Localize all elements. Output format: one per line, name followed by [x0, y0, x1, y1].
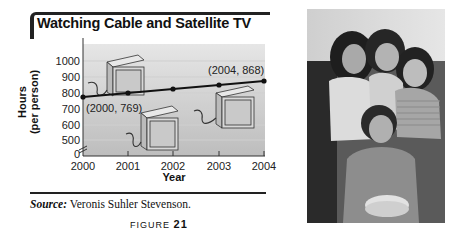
- svg-text:2004: 2004: [252, 160, 276, 172]
- figure-word: FIGURE: [130, 220, 170, 230]
- source-text: Veronis Suhler Stevenson.: [67, 198, 191, 210]
- photo-illustration: [307, 9, 445, 223]
- annotation-2004: (2004, 868): [208, 64, 264, 76]
- family-photo: [307, 9, 445, 223]
- ytick-700: 700: [62, 103, 80, 115]
- y-axis-label-line1: Hours: [16, 70, 28, 134]
- line-chart: 0 500 600 700 800 900 1000 2000 2001 200…: [0, 0, 300, 180]
- svg-text:2001: 2001: [116, 160, 140, 172]
- annotation-2000: (2000, 769): [86, 102, 142, 114]
- svg-text:2000: 2000: [71, 160, 95, 172]
- x-axis-label: Year: [162, 171, 185, 183]
- figure-label: FIGURE 21: [130, 218, 188, 230]
- ytick-1000: 1000: [56, 55, 80, 67]
- ytick-500: 500: [62, 134, 80, 146]
- y-axis-label-line2: (per person): [28, 70, 40, 134]
- source-label: Source:: [30, 198, 67, 210]
- caption-rule: [30, 192, 266, 194]
- ytick-900: 900: [62, 71, 80, 83]
- y-axis-label: Hours (per person): [16, 70, 40, 134]
- svg-text:2003: 2003: [207, 160, 231, 172]
- ytick-800: 800: [62, 87, 80, 99]
- ytick-0: 0: [74, 148, 80, 160]
- figure-number: 21: [174, 218, 188, 230]
- source-caption: Source: Veronis Suhler Stevenson.: [30, 198, 191, 210]
- ytick-600: 600: [62, 119, 80, 131]
- y-tick-labels: 0 500 600 700 800 900 1000: [56, 55, 80, 160]
